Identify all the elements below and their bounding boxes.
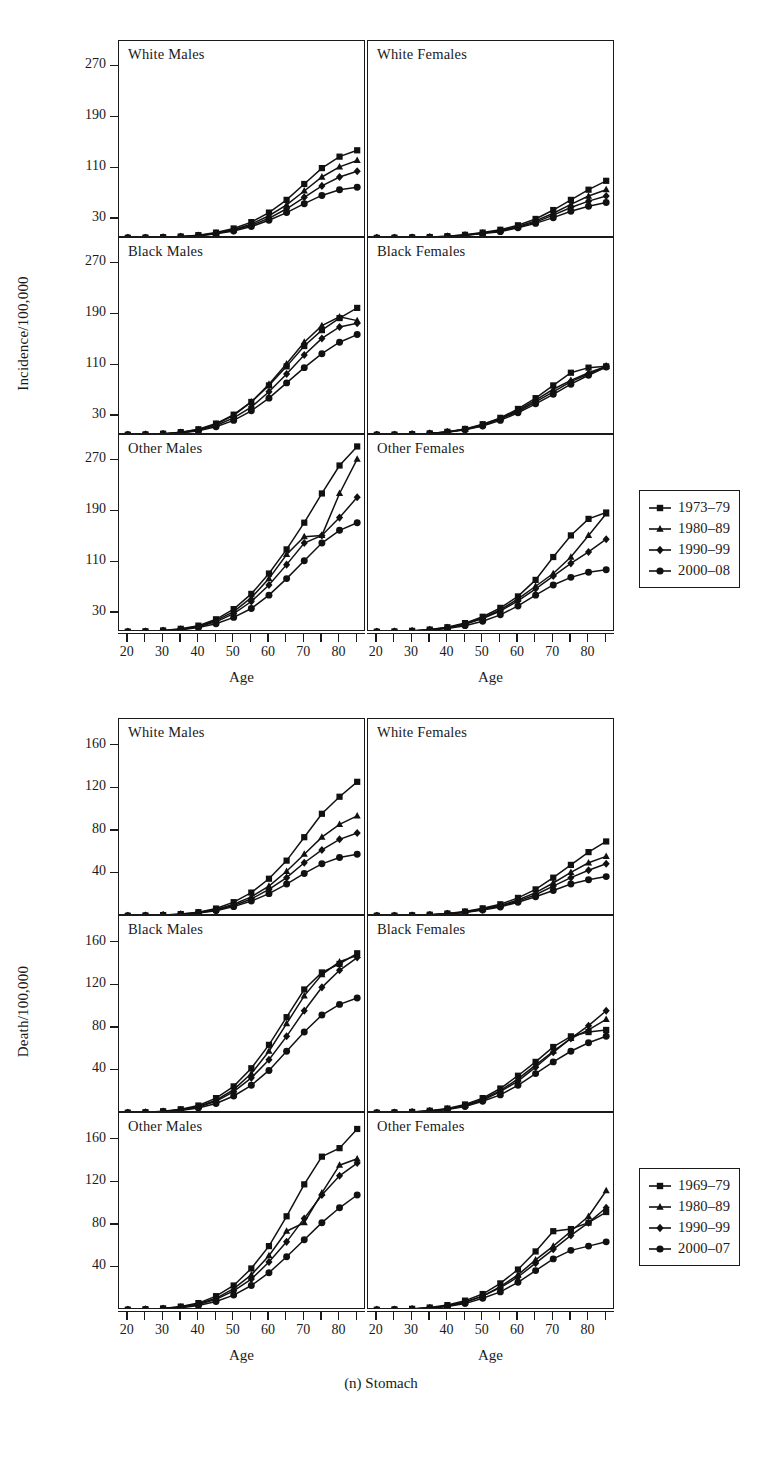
- legend-label: 1973–79: [678, 499, 730, 516]
- x-tick-mark: [338, 634, 339, 642]
- stomach-cancer-figure: White MalesWhite FemalesBlack MalesBlack…: [0, 0, 762, 1477]
- panel-black-males: Black Males: [118, 237, 365, 434]
- x-tick-mark: [126, 634, 127, 642]
- x-tick-mark: [605, 1312, 606, 1320]
- panel-title: Other Females: [377, 1118, 465, 1135]
- legend-label: 1980–89: [678, 520, 730, 537]
- y-tick-label: 270: [62, 56, 106, 72]
- y-tick-mark: [110, 1026, 118, 1027]
- y-tick-label: 190: [62, 501, 106, 517]
- panel-black-females: Black Females: [367, 915, 614, 1112]
- y-tick-mark: [110, 459, 118, 460]
- y-tick-mark: [110, 787, 118, 788]
- legend-marker-circle-icon: [647, 562, 673, 580]
- x-tick-mark: [162, 634, 163, 642]
- legend-label: 1969–79: [678, 1177, 730, 1194]
- legend-marker-circle-icon: [647, 1240, 673, 1258]
- x-tick-label: 80: [568, 644, 608, 660]
- legend-item[interactable]: 1990–99: [647, 1217, 730, 1238]
- legend-item[interactable]: 2000–07: [647, 1238, 730, 1259]
- x-tick-mark: [569, 634, 570, 642]
- x-tick-mark: [375, 1312, 376, 1320]
- x-tick-mark: [179, 1312, 180, 1320]
- x-tick-mark: [232, 1312, 233, 1320]
- y-tick-mark: [110, 1223, 118, 1224]
- panel-title: Other Males: [128, 1118, 202, 1135]
- legend-item[interactable]: 1990–99: [647, 539, 730, 560]
- legend-item[interactable]: 1980–89: [647, 518, 730, 539]
- x-tick-mark: [534, 1312, 535, 1320]
- x-tick-label: 80: [568, 1322, 608, 1338]
- y-tick-label: 160: [62, 1130, 106, 1146]
- panel-white-females: White Females: [367, 40, 614, 237]
- legend-marker-triangle-icon: [647, 1198, 673, 1216]
- x-tick-mark: [197, 634, 198, 642]
- x-tick-label: 20: [107, 644, 147, 660]
- panel-title: Black Females: [377, 921, 465, 938]
- x-tick-mark: [499, 1312, 500, 1320]
- x-tick-mark: [569, 1312, 570, 1320]
- x-tick-mark: [446, 634, 447, 642]
- legend-marker-square-icon: [647, 499, 673, 517]
- x-tick-mark: [534, 634, 535, 642]
- panel-title: Other Males: [128, 440, 202, 457]
- x-tick-mark: [499, 634, 500, 642]
- x-tick-mark: [516, 634, 517, 642]
- y-tick-label: 30: [62, 406, 106, 422]
- x-tick-mark: [464, 634, 465, 642]
- x-tick-mark: [197, 1312, 198, 1320]
- panel-title: Black Males: [128, 921, 203, 938]
- panel-title: White Males: [128, 724, 205, 741]
- x-tick-label: 20: [107, 1322, 147, 1338]
- y-tick-label: 40: [62, 1257, 106, 1273]
- legend-item[interactable]: 2000–08: [647, 560, 730, 581]
- x-tick-mark: [516, 1312, 517, 1320]
- panel-title: White Females: [377, 724, 467, 741]
- x-tick-mark: [320, 634, 321, 642]
- legend-label: 1980–89: [678, 1198, 730, 1215]
- x-tick-label: 30: [391, 644, 431, 660]
- x-tick-mark: [393, 634, 394, 642]
- death-chart-block: White MalesWhite FemalesBlack MalesBlack…: [0, 718, 762, 1418]
- x-tick-label: 60: [497, 644, 537, 660]
- y-tick-label: 120: [62, 975, 106, 991]
- y-tick-label: 110: [62, 552, 106, 568]
- y-tick-label: 190: [62, 304, 106, 320]
- x-tick-label: 50: [462, 644, 502, 660]
- y-tick-mark: [110, 872, 118, 873]
- x-tick-mark: [356, 634, 357, 642]
- y-tick-mark: [110, 510, 118, 511]
- legend-marker-diamond-icon: [647, 1219, 673, 1237]
- x-tick-label: 40: [177, 644, 217, 660]
- x-tick-mark: [428, 1312, 429, 1320]
- x-tick-mark: [464, 1312, 465, 1320]
- legend-item[interactable]: 1969–79: [647, 1175, 730, 1196]
- x-tick-mark: [552, 1312, 553, 1320]
- x-tick-label: 40: [426, 1322, 466, 1338]
- y-tick-label: 80: [62, 821, 106, 837]
- x-tick-mark: [303, 1312, 304, 1320]
- y-tick-mark: [110, 167, 118, 168]
- y-tick-mark: [110, 829, 118, 830]
- legend: 1973–79 1980–89 1990–99 2000–08: [639, 490, 740, 588]
- y-tick-label: 190: [62, 107, 106, 123]
- legend-item[interactable]: 1973–79: [647, 497, 730, 518]
- legend-item[interactable]: 1980–89: [647, 1196, 730, 1217]
- y-tick-label: 270: [62, 253, 106, 269]
- y-tick-mark: [110, 1138, 118, 1139]
- x-tick-label: 80: [319, 1322, 359, 1338]
- y-tick-label: 80: [62, 1018, 106, 1034]
- x-tick-mark: [250, 634, 251, 642]
- x-tick-mark: [215, 634, 216, 642]
- x-tick-mark: [232, 634, 233, 642]
- x-tick-mark: [481, 1312, 482, 1320]
- x-tick-label: 80: [319, 644, 359, 660]
- y-tick-mark: [110, 1266, 118, 1267]
- x-axis-line: [367, 633, 614, 634]
- y-tick-mark: [110, 116, 118, 117]
- y-tick-mark: [110, 65, 118, 66]
- y-tick-label: 160: [62, 933, 106, 949]
- x-tick-label: 50: [213, 644, 253, 660]
- x-tick-mark: [393, 1312, 394, 1320]
- panel-title: White Females: [377, 46, 467, 63]
